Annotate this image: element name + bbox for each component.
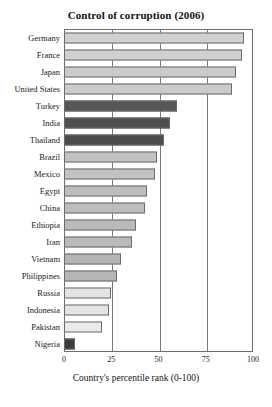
y-axis-label: Brazil — [0, 148, 60, 165]
bar-row — [64, 80, 253, 97]
bar-china — [64, 202, 145, 213]
bar-row — [64, 114, 253, 131]
y-axis-label: India — [0, 114, 60, 131]
y-axis-label: Nigeria — [0, 335, 60, 352]
bar-ethiopia — [64, 219, 136, 230]
bar-row — [64, 29, 253, 46]
bar-russia — [64, 287, 111, 298]
y-axis-label: Japan — [0, 63, 60, 80]
bar-philippines — [64, 270, 117, 281]
bar-france — [64, 49, 242, 60]
y-axis-label: Iran — [0, 233, 60, 250]
bar-row — [64, 199, 253, 216]
bar-iran — [64, 236, 132, 247]
bar-row — [64, 131, 253, 148]
y-axis-label: China — [0, 199, 60, 216]
chart-container: Control of corruption (2006) GermanyFran… — [0, 0, 272, 407]
y-axis-label: Vietnam — [0, 250, 60, 267]
y-axis-label: Mexico — [0, 165, 60, 182]
x-tick-label: 0 — [62, 355, 66, 364]
bar-row — [64, 301, 253, 318]
bar-egypt — [64, 185, 147, 196]
bar-row — [64, 250, 253, 267]
bar-row — [64, 284, 253, 301]
y-axis-label: Ethiopia — [0, 216, 60, 233]
bar-indonesia — [64, 304, 109, 315]
bar-mexico — [64, 168, 155, 179]
bar-row — [64, 182, 253, 199]
bar-thailand — [64, 134, 164, 145]
bar-pakistan — [64, 321, 102, 332]
bar-row — [64, 318, 253, 335]
bar-brazil — [64, 151, 157, 162]
y-axis-category-labels: GermanyFranceJapanUnited StatesTurkeyInd… — [0, 29, 60, 352]
bar-turkey — [64, 100, 177, 111]
x-tick-label: 25 — [107, 355, 115, 364]
y-axis-label: Turkey — [0, 97, 60, 114]
bar-vietnam — [64, 253, 121, 264]
bar-row — [64, 335, 253, 352]
y-axis-label: Germany — [0, 29, 60, 46]
bar-nigeria — [64, 338, 75, 349]
x-tick-label: 100 — [247, 355, 259, 364]
y-axis-label: Pakistan — [0, 318, 60, 335]
bar-japan — [64, 66, 236, 77]
y-axis-label: France — [0, 46, 60, 63]
bar-row — [64, 267, 253, 284]
y-axis-label: Thailand — [0, 131, 60, 148]
bar-germany — [64, 32, 244, 43]
bar-row — [64, 148, 253, 165]
x-tick-label: 75 — [202, 355, 210, 364]
y-axis-label: United States — [0, 80, 60, 97]
x-axis-ticks: 0255075100 — [64, 352, 253, 366]
bar-row — [64, 165, 253, 182]
bar-row — [64, 233, 253, 250]
x-axis-title: Country's percentile rank (0-100) — [0, 373, 272, 383]
bar-row — [64, 63, 253, 80]
bar-india — [64, 117, 170, 128]
bar-united-states — [64, 83, 232, 94]
bar-row — [64, 46, 253, 63]
chart-title: Control of corruption (2006) — [0, 9, 272, 21]
x-tick-label: 50 — [155, 355, 163, 364]
y-axis-label: Russia — [0, 284, 60, 301]
y-axis-label: Philippines — [0, 267, 60, 284]
y-axis-label: Egypt — [0, 182, 60, 199]
y-axis-label: Indonesia — [0, 301, 60, 318]
bar-row — [64, 97, 253, 114]
bars-layer — [64, 29, 253, 352]
bar-row — [64, 216, 253, 233]
